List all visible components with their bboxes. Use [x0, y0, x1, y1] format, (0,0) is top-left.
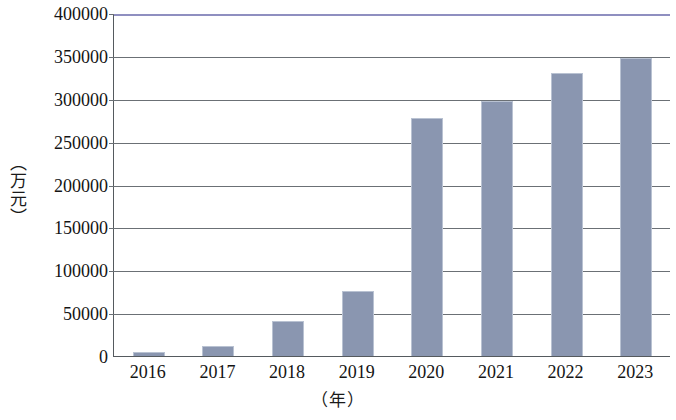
- y-tick-label: 200000: [2, 177, 108, 195]
- bar: [133, 352, 165, 356]
- y-tick-label: 300000: [2, 91, 108, 109]
- bar-chart: （万元） 05000010000015000020000025000030000…: [0, 0, 676, 420]
- bar: [342, 291, 374, 356]
- bars-layer: [114, 14, 670, 356]
- bar: [272, 321, 304, 356]
- y-tick-label: 150000: [2, 219, 108, 237]
- y-tick-label: 0: [2, 348, 108, 366]
- bar: [202, 346, 234, 356]
- x-tick-label: 2016: [130, 363, 166, 381]
- bar: [411, 118, 443, 356]
- plot-area: [113, 14, 670, 357]
- y-tick-label: 50000: [2, 305, 108, 323]
- x-tick-label: 2021: [478, 363, 514, 381]
- bar: [620, 58, 652, 356]
- x-axis-tick-labels: 20162017201820192020202120222023: [113, 363, 670, 391]
- x-axis-title: （年）: [0, 392, 676, 409]
- x-tick-label: 2017: [199, 363, 235, 381]
- y-axis-tick-labels: 0500001000001500002000002500003000003500…: [0, 0, 108, 420]
- x-tick-label: 2022: [548, 363, 584, 381]
- x-tick-label: 2023: [617, 363, 653, 381]
- y-tick-label: 400000: [2, 5, 108, 23]
- bar: [551, 73, 583, 356]
- x-tick-label: 2018: [269, 363, 305, 381]
- x-tick-label: 2019: [339, 363, 375, 381]
- bar: [481, 101, 513, 356]
- y-tick-label: 350000: [2, 48, 108, 66]
- x-tick-label: 2020: [408, 363, 444, 381]
- y-tick-label: 250000: [2, 134, 108, 152]
- y-tick-label: 100000: [2, 262, 108, 280]
